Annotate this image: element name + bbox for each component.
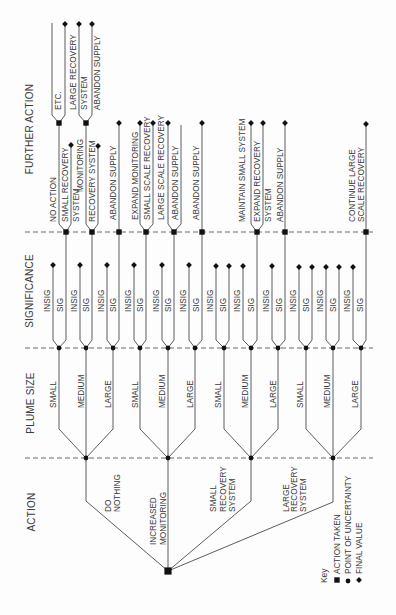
branch-line — [361, 232, 366, 348]
branch-label: SIG — [192, 298, 201, 312]
branch-label: LARGE — [104, 380, 113, 408]
branch-line — [59, 232, 66, 348]
branch-label: ETC. — [54, 91, 63, 110]
level-headers: FURTHER ACTIONSIGNIFICANCEPLUME SIZEACTI… — [24, 84, 37, 532]
branch-label: INCREASED — [149, 497, 158, 545]
key-item-square-label: ACTION TAKEN — [333, 514, 342, 574]
branch-line — [168, 232, 174, 348]
branch-label: INSIG — [206, 290, 215, 312]
branch-label: NOTHING — [113, 474, 122, 512]
action-taken-square-icon — [334, 577, 339, 582]
uncertainty-point-icon — [193, 346, 198, 351]
branch-label: SYSTEM — [228, 478, 237, 512]
key-item-diamond-label: FINAL VALUE — [355, 522, 364, 574]
final-value-diamond-icon — [363, 121, 369, 127]
branch-label: SIG — [329, 298, 338, 312]
uncertainty-point-icon — [111, 346, 116, 351]
branch-label: SIG — [82, 298, 91, 312]
branch-label: MONITORING — [159, 492, 168, 545]
final-value-diamond-icon — [199, 120, 205, 126]
action-taken-square-icon — [83, 120, 88, 125]
final-value-diamond-icon — [131, 262, 137, 268]
branch-label: ABANDON SUPPLY — [93, 35, 102, 110]
branch-label: INSIG — [262, 290, 271, 312]
branch-label: LARGE — [186, 380, 195, 408]
action-taken-square-icon — [116, 229, 121, 234]
final-value-diamond-icon — [248, 120, 254, 126]
uncertainty-point-icon — [331, 456, 336, 461]
final-value-diamond-icon — [76, 21, 82, 27]
branch-label: SYSTEM — [72, 188, 81, 222]
branch-label: SIG — [56, 298, 65, 312]
branch-label: INSIG — [70, 290, 79, 312]
branch-label: MEDIUM — [241, 375, 250, 408]
action-taken-square-icon — [143, 229, 148, 234]
branch-label: CONTINUE LARGE — [348, 149, 357, 222]
key-title: Key — [319, 568, 329, 583]
final-value-diamond-icon — [309, 264, 315, 270]
final-value-diamond-icon — [260, 120, 266, 126]
branch-label: RECOVERY — [290, 466, 299, 512]
uncertainty-point-icon — [359, 346, 364, 351]
uncertainty-point-icon — [331, 346, 336, 351]
branch-label: RECOVERY SYSTEM — [88, 140, 97, 222]
branch-label: NO ACTION — [49, 177, 58, 222]
final-value-diamond-icon — [269, 263, 275, 269]
branch-label: MEDIUM — [323, 375, 332, 408]
branch-label: SMALL RECOVERY — [61, 147, 70, 222]
branch-label: SMALL — [209, 485, 218, 512]
branch-label: SMALL SCALE RECOVERY — [143, 116, 152, 220]
final-value-diamond-icon — [350, 264, 356, 270]
action-taken-square-icon — [199, 229, 204, 234]
branch-label: INSIG — [233, 290, 242, 312]
final-value-diamond-icon — [226, 263, 232, 269]
final-value-diamond-icon — [296, 264, 302, 270]
branch-label: ABANDON SUPPLY — [192, 145, 201, 220]
uncertainty-point-icon — [57, 346, 62, 351]
action-taken-square-icon — [171, 229, 176, 234]
final-value-diamond-icon — [77, 262, 83, 268]
branch-line — [168, 458, 333, 571]
final-value-diamond-icon — [213, 263, 219, 269]
branch-label: SIG — [109, 298, 118, 312]
branch-label: EXPAND MONITORING — [131, 132, 140, 220]
branch-label: SIG — [136, 298, 145, 312]
branch-label: LARGE — [269, 380, 278, 408]
action-taken-square-icon — [63, 229, 68, 234]
branch-label: MEDIUM — [77, 375, 86, 408]
branch-label: SIG — [275, 298, 284, 312]
branch-label: LARGE SCALE RECOVERY — [157, 115, 166, 220]
action-taken-square-icon — [282, 229, 287, 234]
branch-label: SMALL — [214, 381, 223, 408]
branch-label: INSIG — [43, 290, 52, 312]
final-value-diamond-icon — [89, 21, 95, 27]
branch-labels: DONOTHINGSMALLINSIGSIGNO ACTIONETC.SMALL… — [43, 34, 366, 545]
uncertainty-point-icon — [249, 346, 254, 351]
branch-label: SMALL — [49, 381, 58, 408]
branch-label: RECOVERY — [219, 466, 228, 512]
level-header-action: ACTION — [26, 493, 37, 532]
branch-line — [140, 232, 146, 348]
final-value-diamond-icon — [50, 262, 56, 268]
level-header-plume-size: PLUME SIZE — [25, 372, 36, 434]
branch-label: ABANDON SUPPLY — [109, 145, 118, 220]
level-header-further-action: FURTHER ACTION — [24, 84, 35, 174]
branch-label: SIG — [302, 298, 311, 312]
branch-label: SMALL — [296, 381, 305, 408]
final-value-diamond-icon — [62, 21, 68, 27]
branch-label: INSIG — [343, 290, 352, 312]
branch-line — [278, 232, 285, 348]
branch-label: SIG — [356, 298, 365, 312]
final-value-diamond-icon — [356, 577, 362, 583]
branch-label: LARGE RECOVERY — [69, 34, 78, 110]
action-taken-square-icon — [89, 229, 94, 234]
branch-label: INSIG — [179, 290, 188, 312]
action-taken-square-icon — [56, 120, 61, 125]
final-value-diamond-icon — [240, 263, 246, 269]
uncertainty-point-icon — [346, 579, 351, 584]
uncertainty-point-icon — [166, 456, 171, 461]
branch-label: EXPAND RECOVERY — [253, 140, 262, 222]
branch-label: DO — [104, 500, 113, 512]
branch-line — [113, 232, 119, 348]
action-taken-square-icon — [363, 229, 368, 234]
